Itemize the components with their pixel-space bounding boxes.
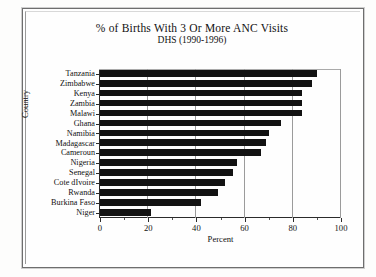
x-tick-0 [100, 218, 101, 222]
bar-row [100, 208, 341, 218]
x-tick-minor-50 [221, 218, 222, 220]
x-tick-minor-70 [269, 218, 270, 220]
y-tick [96, 104, 100, 105]
y-tick-label: Malawi [70, 109, 95, 118]
bar [100, 159, 237, 166]
bar-row [100, 109, 341, 119]
y-tick [96, 94, 100, 95]
bar [100, 149, 261, 156]
bar [100, 120, 281, 127]
x-tick-label: 40 [192, 223, 201, 233]
x-tick-80 [293, 218, 294, 222]
y-tick [96, 173, 100, 174]
bar [100, 199, 201, 206]
y-tick-label: Ghana [74, 119, 95, 128]
x-axis-title: Percent [99, 234, 342, 244]
bar-row [100, 119, 341, 129]
bar [100, 179, 225, 186]
y-tick-label: Cameroun [61, 148, 95, 157]
bar [100, 139, 266, 146]
y-axis-tick-labels: TanzaniaZimbabweKenyaZambiaMalawiGhanaNa… [30, 69, 97, 218]
bar-row [100, 99, 341, 109]
bar-row [100, 138, 341, 148]
x-tick-label: 100 [335, 223, 348, 233]
y-tick [96, 133, 100, 134]
chart-title-block: % of Births With 3 Or More ANC Visits DH… [22, 22, 362, 45]
x-tick-minor-90 [317, 218, 318, 220]
bar-row [100, 69, 341, 79]
y-axis-title: Country [20, 90, 30, 118]
bar [100, 80, 312, 87]
bar-row [100, 79, 341, 89]
chart-title: % of Births With 3 Or More ANC Visits [22, 22, 362, 34]
bar-row [100, 178, 341, 188]
bar [100, 100, 302, 107]
y-tick [96, 124, 100, 125]
x-tick-label: 60 [240, 223, 249, 233]
y-tick [96, 163, 100, 164]
y-tick-label: Zimbabwe [60, 79, 95, 88]
y-tick-label: Tanzania [66, 69, 95, 78]
x-tick-60 [245, 218, 246, 222]
x-tick-20 [148, 218, 149, 222]
bar-row [100, 148, 341, 158]
x-tick-label: 20 [144, 223, 153, 233]
chart-figure: % of Births With 3 Or More ANC Visits DH… [0, 0, 376, 277]
x-tick-label: 0 [98, 223, 102, 233]
bar [100, 189, 218, 196]
x-tick-minor-10 [124, 218, 125, 220]
bar [100, 209, 151, 216]
y-tick [96, 203, 100, 204]
bar [100, 90, 302, 97]
y-tick [96, 153, 100, 154]
bar-row [100, 158, 341, 168]
y-tick-label: Zambia [70, 99, 95, 108]
x-tick-minor-30 [172, 218, 173, 220]
y-tick-label: Burkina Faso [51, 198, 95, 207]
y-tick [96, 143, 100, 144]
y-tick-label: Niger [76, 208, 95, 217]
plot-area [99, 69, 341, 218]
y-tick [96, 114, 100, 115]
bar [100, 110, 302, 117]
bar-series [100, 69, 341, 218]
y-tick-label: Senegal [69, 168, 95, 177]
bar-row [100, 168, 341, 178]
x-tick-100 [341, 218, 342, 222]
y-tick-label: Namibia [67, 129, 95, 138]
chart-subtitle: DHS (1990-1996) [22, 35, 362, 45]
y-tick [96, 74, 100, 75]
x-tick-label: 80 [289, 223, 298, 233]
y-tick [96, 213, 100, 214]
bar-row [100, 188, 341, 198]
bar-row [100, 89, 341, 99]
y-tick-label: Madagascar [55, 139, 95, 148]
y-tick [96, 193, 100, 194]
bar [100, 169, 233, 176]
y-tick-label: Nigeria [70, 158, 95, 167]
bar [100, 130, 269, 137]
bar-row [100, 129, 341, 139]
y-tick [96, 84, 100, 85]
x-tick-40 [196, 218, 197, 222]
y-tick-label: Rwanda [68, 188, 95, 197]
y-tick-label: Cote dIvoire [54, 178, 95, 187]
bar [100, 70, 317, 77]
bar-row [100, 198, 341, 208]
y-tick [96, 183, 100, 184]
y-tick-label: Kenya [74, 89, 95, 98]
